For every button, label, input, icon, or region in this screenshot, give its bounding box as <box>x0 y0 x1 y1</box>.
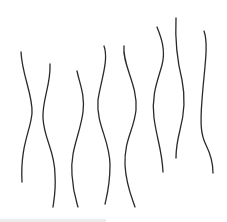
wavy-lines-drawing <box>0 0 227 222</box>
bottom-edge-bar <box>0 219 106 222</box>
wavy-line-5 <box>124 46 136 207</box>
wavy-line-8 <box>201 31 213 173</box>
wavy-line-1 <box>21 52 32 182</box>
wavy-line-4 <box>98 46 110 204</box>
wavy-line-6 <box>153 27 163 172</box>
wavy-line-3 <box>72 71 84 207</box>
wavy-line-7 <box>176 18 184 158</box>
wavy-line-2 <box>43 64 55 207</box>
